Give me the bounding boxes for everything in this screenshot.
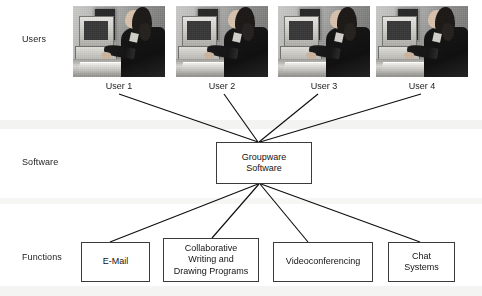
user-caption-2: User 2 (176, 81, 268, 91)
scan-band (0, 120, 482, 129)
node-e-mail[interactable]: E-Mail (81, 242, 150, 282)
node-collaborative-writing-and-drawing-programs[interactable]: Collaborative Writing and Drawing Progra… (163, 238, 259, 282)
node-videoconferencing[interactable]: Videoconferencing (273, 242, 373, 282)
node-label: E-Mail (101, 256, 131, 268)
link-user4-to-software (260, 94, 421, 142)
scan-band (0, 286, 482, 296)
node-label: Groupware Software (240, 152, 289, 175)
user-photo-3 (278, 6, 370, 77)
link-software-to-email (110, 184, 258, 242)
link-user3-to-software (259, 94, 318, 142)
user-caption-3: User 3 (278, 81, 370, 91)
user-photo-2 (176, 6, 268, 77)
row-label-functions: Functions (22, 252, 62, 262)
user-photo-4 (376, 6, 468, 77)
user-photo-1 (73, 6, 165, 77)
diagram-canvas: Users Software Functions User 1 User 2 (0, 0, 482, 296)
row-label-software: Software (22, 157, 58, 167)
node-label: Collaborative Writing and Drawing Progra… (172, 243, 251, 278)
node-label: Videoconferencing (284, 256, 362, 268)
user-caption-1: User 1 (73, 81, 165, 91)
link-user1-to-software (119, 94, 258, 142)
link-software-to-collab (212, 184, 259, 238)
node-groupware-software[interactable]: Groupware Software (216, 142, 312, 184)
row-label-users: Users (22, 34, 46, 44)
link-software-to-video (260, 184, 308, 242)
link-software-to-chat (261, 184, 420, 242)
user-caption-4: User 4 (376, 81, 468, 91)
node-label: Chat Systems (402, 251, 441, 274)
link-user2-to-software (224, 94, 258, 142)
node-chat-systems[interactable]: Chat Systems (388, 242, 455, 282)
scan-band (0, 198, 482, 204)
